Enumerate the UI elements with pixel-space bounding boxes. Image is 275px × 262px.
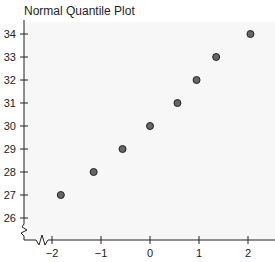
data-point (119, 146, 126, 153)
y-tick-label: 34 (4, 28, 16, 40)
x-tick-label: −1 (95, 247, 108, 259)
y-tick-label: 33 (4, 51, 16, 63)
x-tick-label: −2 (46, 247, 59, 259)
y-tick-label: 31 (4, 97, 16, 109)
y-tick-label: 26 (4, 212, 16, 224)
y-tick-label: 30 (4, 120, 16, 132)
y-tick-label: 27 (4, 189, 16, 201)
data-point (90, 169, 97, 176)
y-tick-label: 29 (4, 143, 16, 155)
data-point (57, 192, 64, 199)
plot-area (24, 22, 275, 240)
x-tick-label: 2 (245, 247, 251, 259)
x-tick-label: 0 (147, 247, 153, 259)
data-point (213, 54, 220, 61)
x-tick-label: 1 (196, 247, 202, 259)
y-tick-label: 32 (4, 74, 16, 86)
y-tick-label: 28 (4, 166, 16, 178)
quantile-plot: 262728293031323334−2−1012 (0, 0, 275, 262)
data-point (147, 123, 154, 130)
data-point (247, 31, 254, 38)
data-point (193, 77, 200, 84)
data-point (174, 100, 181, 107)
